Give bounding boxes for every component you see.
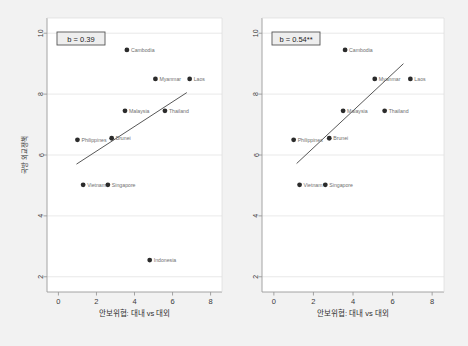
plot-text-label: 8	[209, 297, 213, 306]
data-point-marker	[341, 108, 346, 113]
plot-text-label: Cambodia	[131, 47, 155, 53]
plot-text-label: Philippines	[298, 137, 323, 143]
data-point-marker	[105, 182, 110, 187]
plot-text-label: Laos	[414, 76, 426, 82]
plot-text-label: 8	[38, 92, 45, 96]
plot-text-label: 10	[253, 29, 260, 37]
plot-text-label: 8	[430, 297, 434, 306]
scatter-panel-right: 24681002468안보위협: 대내 vs 대외CambodiaMyanmar…	[234, 0, 468, 330]
figure-canvas: 24681002468안보위협: 대내 vs 대외국방 외교정책Cambodia…	[0, 0, 468, 346]
plot-text-label: Malaysia	[347, 108, 368, 114]
plot-text-label: Malaysia	[129, 108, 150, 114]
plot-text-label: 2	[253, 275, 260, 279]
plot-text-label: 4	[253, 214, 260, 218]
plot-text-label: Vietnam	[304, 182, 323, 188]
plot-text-label: 2	[311, 297, 315, 306]
plot-text-label: 0	[56, 297, 60, 306]
plot-text-label: 2	[94, 297, 98, 306]
data-point-marker	[327, 136, 332, 141]
plot-text-label: 국방 외교정책	[20, 136, 29, 174]
data-point-marker	[297, 182, 302, 187]
plot-text-label: Singapore	[329, 182, 353, 188]
plot-text-label: b = 0.54**	[279, 35, 312, 44]
plot-text-label: 안보위협: 대내 vs 대외	[317, 308, 389, 318]
plot-text-label: Cambodia	[349, 47, 373, 53]
data-point-marker	[382, 108, 387, 113]
plot-text-label: Thailand	[169, 108, 189, 114]
data-point-marker	[123, 108, 128, 113]
plot-text-label: 0	[272, 297, 276, 306]
data-point-marker	[124, 48, 129, 53]
data-point-marker	[291, 137, 296, 142]
data-point-marker	[109, 136, 114, 141]
data-point-marker	[163, 108, 168, 113]
data-point-marker	[343, 48, 348, 53]
plot-text-label: Indonesia	[154, 257, 177, 263]
plot-text-label: Myanmar	[159, 76, 181, 82]
plot-text-label: b = 0.39	[67, 35, 94, 44]
plot-text-label: Myanmar	[379, 76, 401, 82]
data-point-marker	[75, 137, 80, 142]
plot-text-label: 8	[253, 92, 260, 96]
plot-text-label: 10	[38, 29, 45, 37]
scatter-panel-left: 24681002468안보위협: 대내 vs 대외국방 외교정책Cambodia…	[0, 0, 234, 330]
plot-text-label: 6	[38, 153, 45, 157]
data-point-marker	[147, 258, 152, 263]
plot-text-label: 4	[351, 297, 355, 306]
data-point-marker	[372, 76, 377, 81]
panel-right-inner: 24681002468안보위협: 대내 vs 대외CambodiaMyanmar…	[234, 0, 468, 330]
plot-text-label: Philippines	[81, 137, 106, 143]
plot-text-label: Brunei	[116, 135, 131, 141]
plot-text-label: Thailand	[389, 108, 409, 114]
plot-text-label: 안보위협: 대내 vs 대외	[99, 308, 171, 318]
data-point-marker	[81, 182, 86, 187]
scatter-plot-svg: 24681002468안보위협: 대내 vs 대외CambodiaMyanmar…	[234, 0, 468, 330]
plot-text-label: 6	[170, 297, 174, 306]
data-point-marker	[187, 76, 192, 81]
plot-text-label: 6	[253, 153, 260, 157]
scatter-plot-svg: 24681002468안보위협: 대내 vs 대외국방 외교정책Cambodia…	[0, 0, 234, 330]
plot-text-label: 4	[38, 214, 45, 218]
data-point-marker	[408, 76, 413, 81]
plot-text-label: Laos	[194, 76, 206, 82]
plot-text-label: Brunei	[333, 135, 348, 141]
plot-text-label: 4	[132, 297, 136, 306]
plot-text-label: 2	[38, 275, 45, 279]
data-point-marker	[323, 182, 328, 187]
plot-text-label: Vietnam	[87, 182, 106, 188]
panel-left-inner: 24681002468안보위협: 대내 vs 대외국방 외교정책Cambodia…	[0, 0, 234, 330]
data-point-marker	[153, 76, 158, 81]
plot-text-label: 6	[390, 297, 394, 306]
plot-text-label: Singapore	[112, 182, 136, 188]
